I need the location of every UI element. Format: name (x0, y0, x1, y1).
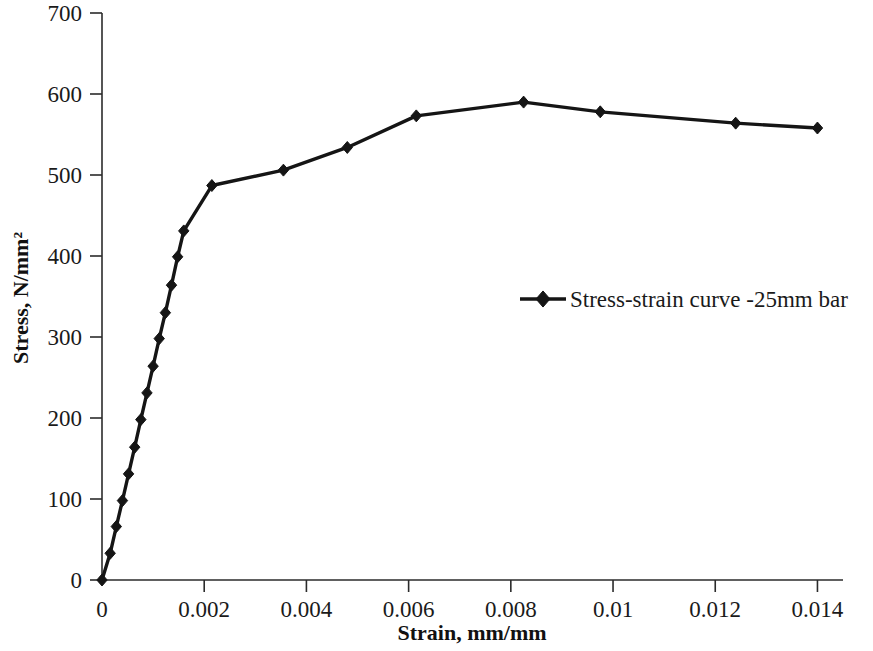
chart-legend: Stress-strain curve -25mm bar (520, 287, 848, 312)
x-tick-label-0.004: 0.004 (281, 597, 333, 622)
data-point-marker (154, 333, 164, 345)
data-point-marker (97, 574, 107, 586)
legend-label: Stress-strain curve -25mm bar (570, 287, 848, 312)
y-axis: 0100200300400500600700 (48, 1, 103, 593)
x-tick-label-0: 0 (96, 597, 108, 622)
data-point-marker (148, 360, 158, 372)
data-point-marker (411, 110, 421, 122)
data-point-marker (142, 387, 152, 399)
data-point-marker (130, 441, 140, 453)
data-point-marker (278, 164, 288, 176)
y-tick-label-200: 200 (48, 406, 83, 431)
y-tick-label-300: 300 (48, 325, 83, 350)
data-point-marker (812, 122, 822, 134)
y-axis-ticks (90, 13, 102, 580)
x-tick-label-0.014: 0.014 (792, 597, 844, 622)
x-tick-label-0.006: 0.006 (383, 597, 435, 622)
chart-canvas: 0100200300400500600700 00.0020.0040.0060… (0, 0, 873, 651)
data-point-marker (136, 414, 146, 426)
data-point-marker (160, 307, 170, 319)
diamond-marker (536, 291, 550, 307)
x-axis-title: Strain, mm/mm (397, 620, 546, 645)
data-point-marker (117, 495, 127, 507)
series-line-stress-strain (102, 102, 817, 580)
y-axis-title: Stress, N/mm² (8, 232, 33, 364)
data-point-marker (172, 251, 182, 263)
x-tick-label-0.002: 0.002 (178, 597, 230, 622)
data-point-marker (342, 141, 352, 153)
y-tick-label-700: 700 (48, 1, 83, 26)
data-point-marker (730, 117, 740, 129)
y-tick-label-500: 500 (48, 163, 83, 188)
data-point-marker (166, 279, 176, 291)
x-axis: 00.0020.0040.0060.0080.010.0120.014 (96, 580, 844, 622)
y-axis-tick-labels: 0100200300400500600700 (48, 1, 83, 593)
data-point-marker (123, 468, 133, 480)
data-point-marker (105, 547, 115, 559)
data-point-marker (518, 96, 528, 108)
plot-series-group (97, 96, 823, 586)
x-axis-ticks (204, 580, 817, 592)
data-point-marker (595, 106, 605, 118)
x-tick-label-0.008: 0.008 (485, 597, 537, 622)
y-tick-label-0: 0 (71, 568, 83, 593)
y-tick-label-400: 400 (48, 244, 83, 269)
series-markers-stress-strain (97, 96, 823, 586)
y-tick-label-600: 600 (48, 82, 83, 107)
stress-strain-figure: 0100200300400500600700 00.0020.0040.0060… (0, 0, 873, 651)
x-tick-label-0.01: 0.01 (593, 597, 633, 622)
data-point-marker (111, 521, 121, 533)
x-axis-tick-labels: 00.0020.0040.0060.0080.010.0120.014 (96, 597, 844, 622)
x-tick-label-0.012: 0.012 (689, 597, 741, 622)
y-tick-label-100: 100 (48, 487, 83, 512)
